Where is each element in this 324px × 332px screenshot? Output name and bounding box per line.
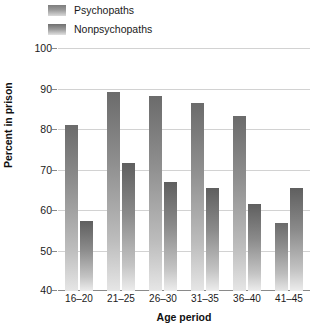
y-axis-tick-label: 90 xyxy=(40,83,52,95)
y-axis-tick-label: 50 xyxy=(40,245,52,257)
bar[interactable] xyxy=(275,223,288,291)
legend-swatch-icon xyxy=(48,5,66,16)
y-axis-tick-mark xyxy=(52,129,57,130)
legend-item-nonpsychopaths: Nonpsychopaths xyxy=(48,21,152,37)
y-axis-title: Percent in prison xyxy=(2,82,14,168)
bar-groups xyxy=(58,48,310,291)
bar[interactable] xyxy=(164,182,177,291)
bar[interactable] xyxy=(122,163,135,291)
bar-group xyxy=(184,48,226,291)
bar[interactable] xyxy=(233,116,246,291)
bar-group xyxy=(268,48,310,291)
x-axis-tick-labels: 16–2021–2526–3031–3536–4041–45 xyxy=(58,293,310,304)
y-axis-tick-label: 60 xyxy=(40,204,52,216)
chart-legend: Psychopaths Nonpsychopaths xyxy=(48,2,152,40)
y-axis-tick-mark xyxy=(52,210,57,211)
x-axis-title: Age period xyxy=(58,311,310,323)
y-axis-tick-mark xyxy=(52,48,57,49)
bar[interactable] xyxy=(191,103,204,291)
x-axis-tick-label: 16–20 xyxy=(58,293,100,304)
x-axis-tick-label: 21–25 xyxy=(100,293,142,304)
y-axis-tick-label: 100 xyxy=(34,42,52,54)
y-axis-tick-mark xyxy=(52,251,57,252)
y-axis-tick-label: 40 xyxy=(40,284,52,296)
bar-group xyxy=(100,48,142,291)
x-axis-tick-label: 31–35 xyxy=(184,293,226,304)
bar[interactable] xyxy=(107,92,120,291)
plot-area: 405060708090100 xyxy=(58,48,310,291)
bar[interactable] xyxy=(65,125,78,291)
bar-group xyxy=(58,48,100,291)
legend-swatch-icon xyxy=(48,24,66,35)
y-axis-tick-mark xyxy=(52,170,57,171)
bar[interactable] xyxy=(290,188,303,291)
x-axis-tick-label: 36–40 xyxy=(226,293,268,304)
bar[interactable] xyxy=(206,188,219,291)
y-axis-tick-label: 70 xyxy=(40,164,52,176)
legend-item-label: Nonpsychopaths xyxy=(74,24,152,35)
x-axis-tick-label: 41–45 xyxy=(268,293,310,304)
y-axis-tick-label: 80 xyxy=(40,123,52,135)
legend-item-psychopaths: Psychopaths xyxy=(48,2,152,18)
bar[interactable] xyxy=(149,96,162,291)
legend-item-label: Psychopaths xyxy=(74,5,134,16)
bar[interactable] xyxy=(248,204,261,291)
x-axis-tick-label: 26–30 xyxy=(142,293,184,304)
y-axis-tick-mark xyxy=(52,89,57,90)
bar[interactable] xyxy=(80,221,93,291)
y-axis-tick-mark xyxy=(52,290,57,291)
bar-group xyxy=(142,48,184,291)
bar-group xyxy=(226,48,268,291)
